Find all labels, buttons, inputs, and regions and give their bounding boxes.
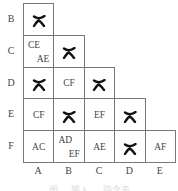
cross-mark-icon (32, 77, 46, 89)
column-label: A (31, 165, 45, 176)
cell-text: CF (24, 110, 53, 120)
table-cell: CF (23, 98, 54, 131)
table-cell (53, 98, 84, 131)
cell-text: AE (85, 142, 114, 152)
cross-mark-icon (123, 141, 137, 153)
row-label: D (4, 77, 18, 88)
cell-text: AC (24, 142, 53, 152)
table-cell (23, 3, 54, 36)
row-label: C (4, 45, 18, 56)
cross-mark-icon (62, 109, 76, 121)
table-cell: AE (84, 130, 115, 163)
row-label: B (4, 13, 18, 24)
table-cell (53, 35, 84, 68)
row-label: F (4, 140, 18, 151)
cross-mark-icon (123, 109, 137, 121)
table-cell (23, 67, 54, 100)
cell-text-top: AD (58, 135, 72, 145)
cell-text-top: CE (28, 40, 40, 50)
table-cell (84, 67, 115, 100)
table-cell (114, 130, 145, 163)
cross-mark-icon (92, 77, 106, 89)
row-label: E (4, 108, 18, 119)
table-cell: EF (84, 98, 115, 131)
cross-mark-icon (62, 45, 76, 57)
column-label: B (62, 165, 76, 176)
column-label: E (153, 165, 167, 176)
column-label: C (92, 165, 106, 176)
figure-caption: 图 — 输入 — 隐含表 (0, 183, 178, 191)
column-label: D (122, 165, 136, 176)
cell-text: CF (54, 78, 83, 88)
cross-mark-icon (32, 13, 46, 25)
table-cell: CEAE (23, 35, 54, 68)
cell-text: EF (85, 110, 114, 120)
table-cell: CF (53, 67, 84, 100)
table-cell: AC (23, 130, 54, 163)
table-cell: AF (145, 130, 176, 163)
cell-text-bottom: EF (69, 149, 80, 159)
cell-text-bottom: AE (37, 54, 50, 64)
table-cell: ADEF (53, 130, 84, 163)
cell-text: AF (146, 142, 175, 152)
table-cell (114, 98, 145, 131)
